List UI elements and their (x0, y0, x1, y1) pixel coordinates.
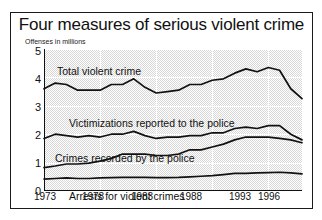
series-label-total-violent-crime: Total violent crime (57, 65, 141, 77)
chart-figure: Four measures of serious violent crime O… (10, 12, 313, 209)
plot-area (11, 13, 314, 210)
series-label-arrests: Arrests for violent crimes (69, 190, 185, 202)
series-label-victimizations-reported: Victimizations reported to the police (69, 117, 235, 129)
series-label-crimes-recorded: Crimes recorded by the police (55, 152, 194, 164)
